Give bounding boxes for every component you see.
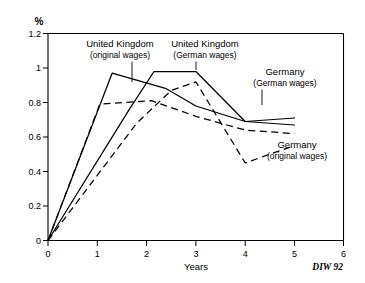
series-line-uk-german-wages <box>48 101 295 241</box>
annotation-label-line2: (original wages) <box>267 151 327 161</box>
series-group <box>48 72 295 241</box>
annotation-germany-german-wages: Germany (German wages) <box>253 66 316 105</box>
y-tick-label: 0.4 <box>28 167 41 177</box>
x-tick-label: 3 <box>193 249 198 259</box>
x-tick-label: 4 <box>243 249 248 259</box>
annotation-label-line1: United Kingdom <box>86 38 154 49</box>
x-tick-label: 6 <box>341 249 346 259</box>
x-tick-label: 5 <box>292 249 297 259</box>
annotation-label-line2: (original wages) <box>90 50 150 60</box>
line-chart: % 1.2 1 0.8 0.6 0.4 0.2 0 <box>0 0 365 283</box>
series-line-uk-original-wages <box>48 73 295 240</box>
annotation-uk-german-wages: United Kingdom (German wages) <box>171 38 239 70</box>
y-tick-label: 0.8 <box>28 98 41 108</box>
y-axis: % 1.2 1 0.8 0.6 0.4 0.2 0 <box>28 16 48 246</box>
x-tick-label: 2 <box>144 249 149 259</box>
series-line-germany-german-wages <box>48 72 295 241</box>
y-axis-unit-label: % <box>35 16 44 27</box>
x-axis-title: Years <box>184 261 208 272</box>
x-axis: 0 1 2 3 4 5 6 Years <box>45 241 346 272</box>
y-tick-label: 0 <box>36 236 41 246</box>
annotation-label-line2: (German wages) <box>253 78 316 88</box>
series-line-germany-original-wages <box>48 82 295 241</box>
y-tick-label: 0.2 <box>28 201 41 211</box>
y-tick-label: 0.6 <box>28 132 41 142</box>
annotation-label-line1: Germany <box>265 66 304 77</box>
annotation-label-line2: (German wages) <box>173 50 236 60</box>
y-tick-label: 1 <box>36 63 41 73</box>
source-credit: DIW 92 <box>311 262 343 272</box>
x-tick-label: 1 <box>95 249 100 259</box>
annotation-germany-original-wages: Germany (original wages) <box>267 139 327 161</box>
annotation-label-line1: United Kingdom <box>171 38 239 49</box>
chart-container: % 1.2 1 0.8 0.6 0.4 0.2 0 <box>0 0 365 283</box>
y-tick-label: 1.2 <box>28 29 41 39</box>
annotation-label-line1: Germany <box>277 139 316 150</box>
x-tick-label: 0 <box>45 249 50 259</box>
